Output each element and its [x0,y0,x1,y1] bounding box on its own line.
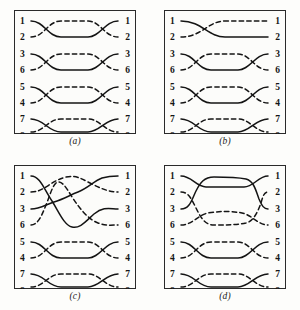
panel-d-left-label-6: 4 [170,253,175,263]
panel-c-left-label-8: 8 [20,286,25,290]
panel-c-left-label-5: 5 [20,237,25,247]
panel-c-left-label-4: 6 [20,220,25,230]
panel-b-left-label-1: 1 [170,16,175,26]
panel-a-wire-dashed-2 [31,54,118,70]
panel-a-caption: (a) [0,136,150,146]
panel-a-right-label-3: 3 [125,49,130,59]
panel-a-left-label-2: 2 [20,32,25,42]
panel-b-caption: (b) [150,136,300,146]
panel-c-wire-dashed-4 [31,274,118,287]
panel-b-left-label-8: 8 [170,131,175,135]
panel-a-right-label-8: 8 [125,131,130,135]
panel-d-caption: (d) [150,291,300,301]
panel-d-right-label-5: 5 [275,237,280,247]
panel-d-diagram: 1 2 3 6 5 4 7 8 1 2 3 6 5 4 7 8 [164,165,286,289]
panel-c-right-label-2: 2 [125,187,130,197]
panel-d-right-label-8: 8 [275,286,280,290]
panel-a-right-label-6: 4 [125,98,130,108]
panel-c-wire-solid-b [31,176,118,209]
panel-a-wire-solid-1 [31,21,118,37]
panel-a-left-label-7: 7 [20,114,25,124]
panel-a-right-label-7: 7 [125,114,130,124]
panel-c-wire-dashed-3 [31,242,118,258]
panel-a-wire-solid-4 [31,119,118,132]
panel-b-diagram: 1 2 3 6 5 4 7 8 1 2 3 6 5 4 7 8 [164,10,286,134]
panel-b-wire-solid-3 [181,87,268,103]
panel-d-right-label-7: 7 [275,269,280,279]
panel-c-wire-solid-4 [31,274,118,287]
panel-a-right-label-1: 1 [125,16,130,26]
panel-b-wire-solid-4 [181,119,268,132]
panel-d-left-label-1: 1 [170,171,175,181]
panel-c-right-label-6: 4 [125,253,130,263]
panel-b-left-label-7: 7 [170,114,175,124]
panel-b-right-label-2: 2 [275,32,280,42]
panel-c-right-label-4: 6 [125,220,130,230]
panel-d-right-label-4: 6 [275,220,280,230]
panel-a-right-label-2: 2 [125,32,130,42]
panel-b-left-label-6: 4 [170,98,175,108]
panel-b-right-label-4: 6 [275,65,280,75]
panel-a-wire-solid-3 [31,87,118,103]
panel-b-right-label-8: 8 [275,131,280,135]
panel-c-left-label-3: 3 [20,204,25,214]
panel-b-left-label-2: 2 [170,32,175,42]
panel-a-right-label-5: 5 [125,82,130,92]
panel-c-left-label-6: 4 [20,253,25,263]
panel-a-left-label-4: 6 [20,65,25,75]
panel-d-right-label-1: 1 [275,171,280,181]
panel-c-wire-dashed-a [31,176,118,192]
panel-b-wire-dashed-4 [181,119,268,132]
panel-a-wire-dashed-4 [31,119,118,132]
panel-c-caption: (c) [0,291,150,301]
panel-a: 1 2 3 6 5 4 7 8 1 2 3 6 5 4 7 8 [0,0,150,155]
panel-d-wire-solid-4 [181,274,268,287]
panel-d: 1 2 3 6 5 4 7 8 1 2 3 6 5 4 7 8 [150,155,300,310]
panel-d-left-label-3: 3 [170,204,175,214]
panel-c-diagram: 1 2 3 6 5 4 7 8 1 2 3 6 5 4 7 8 [14,165,136,289]
panel-a-left-label-6: 4 [20,98,25,108]
panel-c-right-label-3: 3 [125,204,130,214]
panel-a-left-label-5: 5 [20,82,25,92]
panel-b-wire-dashed-3 [181,87,268,103]
panel-c-right-label-7: 7 [125,269,130,279]
panel-d-right-label-6: 4 [275,253,280,263]
panel-d-left-label-2: 2 [170,187,175,197]
panel-d-right-label-2: 2 [275,187,280,197]
panel-a-left-label-1: 1 [20,16,25,26]
panel-a-wire-dashed-3 [31,87,118,103]
panel-b-wire-dashed-2 [181,54,268,70]
panel-c-left-label-2: 2 [20,187,25,197]
panel-c-right-label-5: 5 [125,237,130,247]
figure-grid: 1 2 3 6 5 4 7 8 1 2 3 6 5 4 7 8 [0,0,300,310]
panel-b-left-label-5: 5 [170,82,175,92]
panel-b-right-label-3: 3 [275,49,280,59]
panel-b-right-label-7: 7 [275,114,280,124]
panel-a-diagram: 1 2 3 6 5 4 7 8 1 2 3 6 5 4 7 8 [14,10,136,134]
panel-a-wire-solid-2 [31,54,118,70]
panel-b-wire-solid-1 [181,21,268,37]
panel-d-wire-dashed-4 [181,274,268,287]
panel-d-wire-dashed-b [181,212,268,226]
panel-c-left-label-1: 1 [20,171,25,181]
panel-d-wire-solid-3 [181,242,268,258]
panel-d-left-label-4: 6 [170,220,175,230]
panel-a-right-label-4: 6 [125,65,130,75]
panel-b-right-label-6: 4 [275,98,280,108]
panel-b-left-label-3: 3 [170,49,175,59]
panel-c-right-label-8: 8 [125,286,130,290]
panel-d-wire-dashed-3 [181,242,268,258]
panel-d-left-label-5: 5 [170,237,175,247]
panel-c-wire-solid-3 [31,242,118,258]
panel-b-right-label-1: 1 [275,16,280,26]
panel-c-right-label-1: 1 [125,171,130,181]
panel-d-left-label-8: 8 [170,286,175,290]
panel-a-left-label-8: 8 [20,131,25,135]
panel-b-wire-solid-2 [181,54,268,70]
panel-b: 1 2 3 6 5 4 7 8 1 2 3 6 5 4 7 8 [150,0,300,155]
panel-c: 1 2 3 6 5 4 7 8 1 2 3 6 5 4 7 8 [0,155,150,310]
panel-b-right-label-5: 5 [275,82,280,92]
panel-a-left-label-3: 3 [20,49,25,59]
panel-a-wire-dashed-1 [31,21,118,37]
panel-c-left-label-7: 7 [20,269,25,279]
